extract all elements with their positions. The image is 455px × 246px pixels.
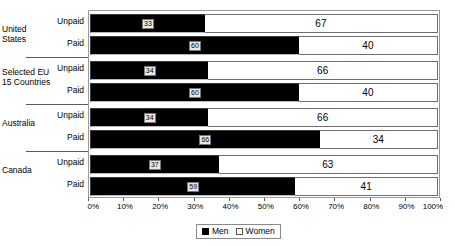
bar-value-men: 60	[189, 41, 201, 51]
bar-segment-women: 63	[219, 155, 438, 174]
plot-area: 33 67 60 40	[88, 10, 440, 198]
bar-segment-men: 59	[90, 177, 295, 196]
bar-group-selected-eu-15-countries: 34 66 60 40	[89, 58, 439, 105]
x-axis-tick	[229, 198, 230, 201]
category-sublabel-paid: Paid	[67, 132, 84, 142]
bar-group-united-states: 33 67 60 40	[89, 11, 439, 58]
bar-row-au-unpaid: 34 66	[90, 108, 438, 127]
x-axis-tick	[158, 198, 159, 201]
bar-group-canada: 37 63 59 41	[89, 152, 439, 199]
bar-value-women: 41	[361, 181, 372, 192]
bar-value-women: 67	[315, 18, 326, 29]
x-axis-tick	[88, 198, 89, 201]
x-axis-tick	[440, 198, 441, 201]
x-axis-tick	[264, 198, 265, 201]
category-sublabel-unpaid: Unpaid	[57, 63, 84, 73]
bar-segment-women: 40	[299, 36, 438, 55]
bar-value-women: 40	[362, 87, 373, 98]
category-axis: Unpaid United States Paid Unpaid Selecte…	[0, 10, 88, 198]
x-axis-tick	[123, 198, 124, 201]
bar-segment-men: 33	[90, 14, 205, 33]
bar-segment-women: 66	[208, 61, 438, 80]
x-axis: 0% 10% 20% 30% 40% 50% 60% 70% 80% 90% 1…	[88, 198, 440, 214]
legend-label-men: Men	[212, 226, 229, 236]
bar-segment-men: 66	[90, 130, 320, 149]
bar-row-ca-paid: 59 41	[90, 177, 438, 196]
x-axis-label-100: 100%	[423, 202, 443, 212]
x-axis-label-30: 30%	[187, 202, 203, 212]
x-axis-tick	[405, 198, 406, 201]
category-separator	[26, 151, 88, 152]
bar-row-us-paid: 60 40	[90, 36, 438, 55]
category-separator	[26, 104, 88, 105]
category-separator	[26, 57, 88, 58]
bar-value-women: 40	[362, 40, 373, 51]
bar-value-men: 60	[189, 88, 201, 98]
x-axis-label-20: 20%	[152, 202, 168, 212]
bar-value-women: 34	[373, 134, 384, 145]
x-axis-label-90: 90%	[399, 202, 415, 212]
category-sublabel-paid: Paid	[67, 85, 84, 95]
plot-wrapper: Unpaid United States Paid Unpaid Selecte…	[0, 10, 455, 200]
bar-row-ca-unpaid: 37 63	[90, 155, 438, 174]
bar-segment-women: 40	[299, 83, 438, 102]
bar-value-men: 34	[144, 113, 156, 123]
legend-item-women: Women	[236, 226, 275, 236]
bar-row-eu-unpaid: 34 66	[90, 61, 438, 80]
legend-swatch-women-icon	[236, 228, 243, 235]
bar-value-women: 66	[317, 112, 328, 123]
bar-group-australia: 34 66 66 34	[89, 105, 439, 152]
category-label-united-states: United States	[2, 25, 52, 44]
chart-legend: Men Women	[196, 224, 281, 239]
bar-value-women: 66	[317, 65, 328, 76]
x-axis-tick	[299, 198, 300, 201]
bar-segment-men: 34	[90, 61, 208, 80]
bar-segment-women: 34	[320, 130, 438, 149]
category-label-canada: Canada	[2, 166, 52, 176]
x-axis-label-60: 60%	[293, 202, 309, 212]
x-axis-label-70: 70%	[328, 202, 344, 212]
bar-row-us-unpaid: 33 67	[90, 14, 438, 33]
legend-swatch-men-icon	[202, 228, 209, 235]
bar-segment-women: 66	[208, 108, 438, 127]
bar-segment-men: 34	[90, 108, 208, 127]
bar-value-men: 59	[187, 182, 199, 192]
category-group-canada: Unpaid Canada Paid	[0, 151, 88, 198]
category-sublabel-paid: Paid	[67, 38, 84, 48]
x-axis-label-0: 0%	[87, 202, 99, 212]
bar-segment-men: 37	[90, 155, 219, 174]
x-axis-label-10: 10%	[117, 202, 133, 212]
bar-segment-women: 67	[205, 14, 438, 33]
legend-item-men: Men	[202, 226, 229, 236]
x-axis-tick	[370, 198, 371, 201]
x-axis-label-50: 50%	[258, 202, 274, 212]
category-sublabel-paid: Paid	[67, 179, 84, 189]
bar-value-men: 37	[149, 160, 161, 170]
category-sublabel-unpaid: Unpaid	[57, 157, 84, 167]
x-axis-tick	[194, 198, 195, 201]
x-axis-tick	[334, 198, 335, 201]
bar-row-au-paid: 66 34	[90, 130, 438, 149]
legend-label-women: Women	[246, 226, 275, 236]
category-sublabel-unpaid: Unpaid	[57, 16, 84, 26]
bar-row-eu-paid: 60 40	[90, 83, 438, 102]
x-axis-label-40: 40%	[223, 202, 239, 212]
category-sublabel-unpaid: Unpaid	[57, 110, 84, 120]
category-group-united-states: Unpaid United States Paid	[0, 10, 88, 57]
bar-value-men: 34	[144, 66, 156, 76]
bar-segment-men: 60	[90, 83, 299, 102]
bar-segment-men: 60	[90, 36, 299, 55]
category-label-selected-eu-15-countries: Selected EU 15 Countries	[2, 68, 58, 87]
bar-value-men: 66	[199, 135, 211, 145]
category-group-australia: Unpaid Australia Paid	[0, 104, 88, 151]
category-group-selected-eu-15-countries: Unpaid Selected EU 15 Countries Paid	[0, 57, 88, 104]
bar-value-men: 33	[142, 19, 154, 29]
bar-segment-women: 41	[295, 177, 438, 196]
category-label-australia: Australia	[2, 119, 52, 129]
x-axis-label-80: 80%	[363, 202, 379, 212]
stacked-bar-chart: Unpaid United States Paid Unpaid Selecte…	[0, 0, 455, 246]
bar-value-women: 63	[322, 159, 333, 170]
